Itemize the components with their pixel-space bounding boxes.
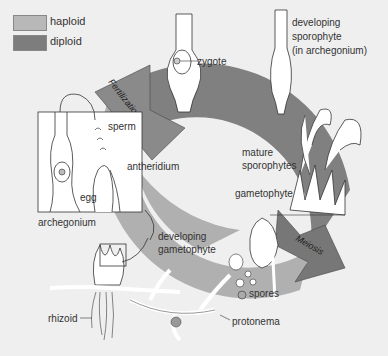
label-developing-gametophyte-2: gametophyte: [158, 244, 216, 255]
label-spores: spores: [249, 288, 279, 299]
legend-label-diploid: diploid: [50, 35, 82, 47]
legend-swatch-haploid: [13, 15, 47, 31]
label-gametophyte: gametophyte: [235, 188, 293, 199]
label-developing-sporophyte-1: developing: [292, 17, 340, 28]
label-sperm: sperm: [108, 121, 136, 132]
label-rhizoid: rhizoid: [48, 313, 77, 324]
label-zygote: zygote: [197, 56, 226, 67]
label-archegonium: archegonium: [38, 217, 96, 228]
label-mature-sporophytes-1: mature: [242, 147, 273, 158]
legend-swatch-diploid: [13, 35, 47, 51]
label-developing-gametophyte-1: developing: [158, 231, 206, 242]
label-egg: egg: [80, 192, 97, 203]
label-protonema: protonema: [232, 316, 280, 327]
label-developing-sporophyte-3: (in archegonium): [292, 45, 367, 56]
label-developing-sporophyte-2: sporophyte: [292, 31, 341, 42]
label-mature-sporophytes-2: sporophytes: [242, 160, 296, 171]
label-antheridium: antheridium: [127, 161, 179, 172]
legend-label-haploid: haploid: [50, 15, 85, 27]
